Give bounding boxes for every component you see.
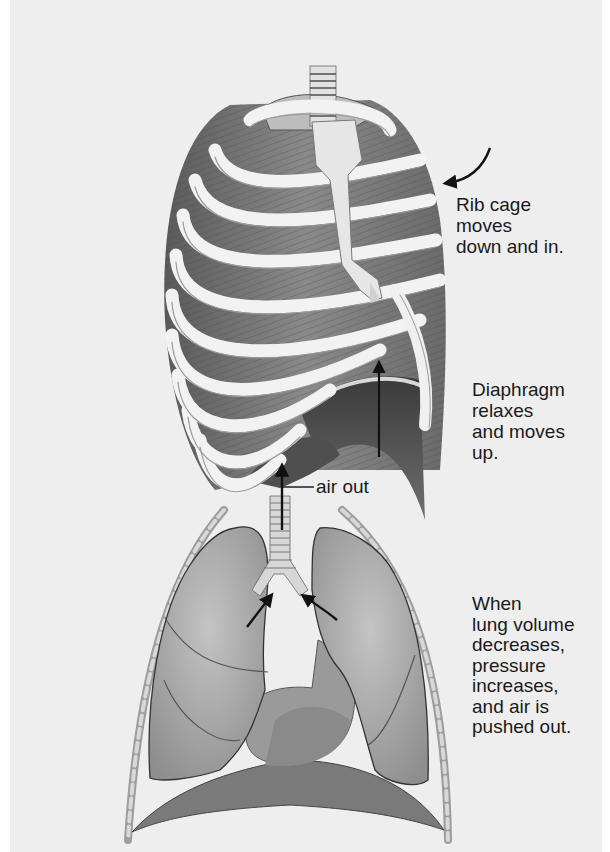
rib-cage-illustration xyxy=(164,66,446,520)
diaphragm-label: Diaphragm relaxes and moves up. xyxy=(472,379,565,463)
rib-cage-motion-arrow xyxy=(448,148,490,183)
trachea-top xyxy=(310,66,336,126)
lung-volume-label: When lung volume decreases, pressure inc… xyxy=(472,594,574,738)
rib-cage-label: Rib cage moves down and in. xyxy=(456,194,564,257)
air-out-label: air out xyxy=(316,477,369,497)
lungs-illustration xyxy=(128,496,448,840)
